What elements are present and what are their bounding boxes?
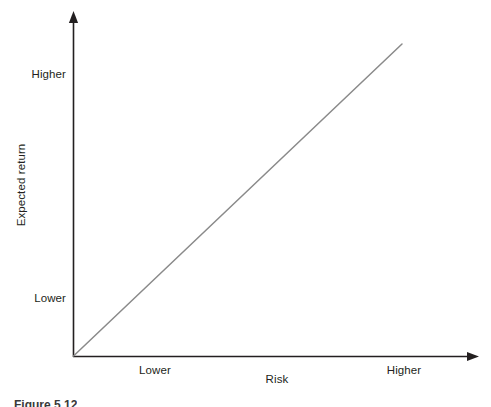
figure-caption: Figure 5.12	[14, 398, 77, 407]
y-axis-arrow-icon	[69, 11, 78, 23]
risk-return-line	[74, 44, 403, 356]
x-axis-title: Risk	[232, 374, 322, 386]
y-axis-tick-label-lower: Lower	[4, 293, 66, 305]
y-axis-tick-label-higher: Higher	[4, 69, 66, 81]
y-axis-title: Expected return	[16, 105, 28, 265]
x-axis-arrow-icon	[467, 352, 479, 361]
x-axis-tick-label-higher: Higher	[359, 365, 449, 377]
x-axis-tick-label-lower: Lower	[110, 365, 200, 377]
